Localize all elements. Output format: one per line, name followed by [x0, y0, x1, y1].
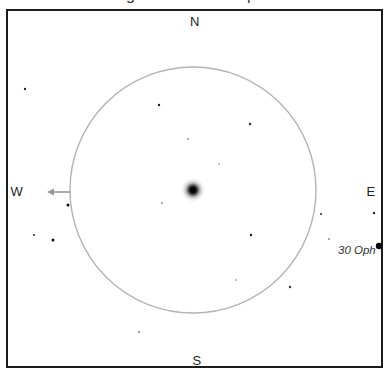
compass-north-label: N [190, 14, 200, 29]
star-field [0, 0, 388, 376]
star [218, 163, 220, 165]
star [52, 239, 55, 242]
star [320, 213, 322, 215]
compass-east-label: E [366, 184, 375, 199]
star [373, 212, 375, 214]
star [24, 88, 26, 90]
star [161, 202, 163, 204]
west-arrow-head [47, 189, 54, 196]
star [250, 234, 252, 236]
star-30oph [376, 243, 382, 249]
telescope-finder-chart: g p N S W E 30 Oph [0, 0, 388, 376]
compass-south-label: S [192, 353, 201, 368]
star [249, 123, 251, 125]
globular-cluster [181, 178, 205, 202]
west-arrow [47, 189, 70, 196]
star [235, 279, 237, 281]
stars-group [24, 88, 382, 333]
star [138, 331, 140, 333]
compass-west-label: W [11, 184, 24, 199]
star [328, 238, 330, 240]
star [187, 138, 189, 140]
star [67, 204, 70, 207]
star [158, 104, 160, 106]
star [33, 234, 35, 236]
star [289, 286, 291, 288]
star-label-30oph: 30 Oph [338, 244, 376, 256]
